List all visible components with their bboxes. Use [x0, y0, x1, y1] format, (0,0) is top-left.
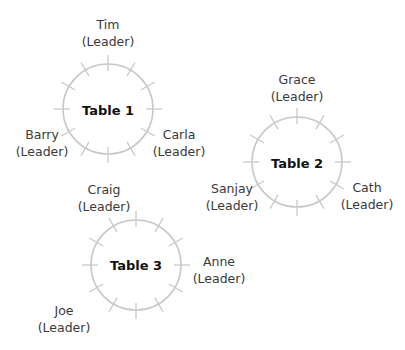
seat-label-cath: Cath (Leader) [341, 180, 394, 213]
table-3-title: Table 3 [110, 258, 162, 273]
person-name: Anne [193, 254, 246, 271]
seat-label-grace: Grace (Leader) [271, 72, 324, 105]
person-name: Cath [341, 180, 394, 197]
person-role: (Leader) [82, 34, 135, 51]
seat-label-craig: Craig (Leader) [78, 182, 131, 215]
person-role: (Leader) [16, 144, 69, 161]
person-role: (Leader) [78, 199, 131, 216]
person-name: Barry [16, 127, 69, 144]
person-role: (Leader) [193, 271, 246, 288]
seat-label-tim: Tim (Leader) [82, 17, 135, 50]
seating-diagram [0, 0, 405, 350]
person-role: (Leader) [206, 198, 259, 215]
person-name: Grace [271, 72, 324, 89]
person-name: Tim [82, 17, 135, 34]
table-2-title: Table 2 [271, 156, 323, 171]
person-role: (Leader) [341, 197, 394, 214]
seat-label-carla: Carla (Leader) [153, 127, 206, 160]
seat-label-anne: Anne (Leader) [193, 254, 246, 287]
table-1-title: Table 1 [82, 103, 134, 118]
person-role: (Leader) [153, 144, 206, 161]
person-role: (Leader) [271, 89, 324, 106]
person-name: Sanjay [206, 181, 259, 198]
seat-label-sanjay: Sanjay (Leader) [206, 181, 259, 214]
seat-label-joe: Joe (Leader) [38, 303, 91, 336]
person-name: Joe [38, 303, 91, 320]
person-name: Craig [78, 182, 131, 199]
person-name: Carla [153, 127, 206, 144]
seat-label-barry: Barry (Leader) [16, 127, 69, 160]
person-role: (Leader) [38, 320, 91, 337]
